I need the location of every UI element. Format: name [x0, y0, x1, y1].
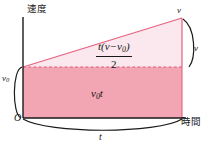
- triangle-area-formula: t(v−v0) 2: [96, 40, 132, 70]
- rect-formula-t: t: [100, 87, 103, 99]
- v0-axis-label: v0: [2, 74, 9, 84]
- triangle-fraction-denominator: 2: [96, 57, 132, 70]
- t-brace-label: t: [99, 132, 102, 142]
- v-brace: [183, 19, 194, 67]
- graph-vector-layer: [0, 0, 209, 146]
- v-apex-label: v: [177, 6, 181, 15]
- tri-num-prefix: t(: [98, 40, 105, 52]
- y-axis-label: 速度: [27, 4, 48, 14]
- triangle-fraction: t(v−v0) 2: [96, 40, 132, 70]
- triangle-fraction-numerator: t(v−v0): [96, 40, 132, 57]
- origin-label: O: [14, 113, 21, 123]
- tri-num-minus: −: [110, 40, 117, 52]
- v0-axis-label-subscript: 0: [6, 76, 9, 83]
- x-axis-label: 時間: [181, 117, 202, 127]
- t-brace: [23, 119, 182, 130]
- tri-num-suffix: ): [126, 40, 130, 52]
- rectangle-area-formula: v0t: [91, 88, 103, 101]
- v-brace-label: v: [194, 44, 198, 53]
- velocity-time-graph-figure: 速度 時間 O v0 v v t v0t t(v−v0) 2: [0, 0, 209, 146]
- v0-brace: [14, 67, 22, 118]
